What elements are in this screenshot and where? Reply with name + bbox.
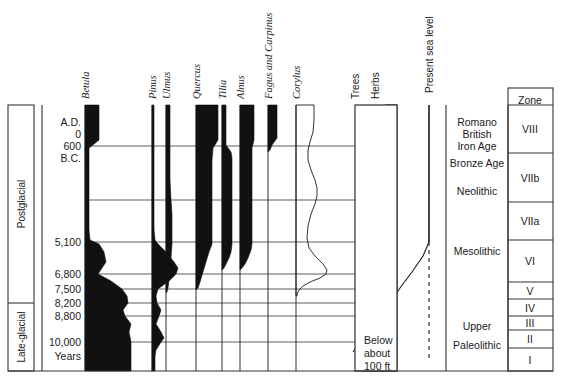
culture-label-1-0: Bronze Age [450, 157, 504, 169]
culture-label-5-0: Paleolithic [453, 339, 501, 351]
taxa-label-alnus: Alnus [235, 75, 246, 100]
time-tick-label-1: 0 [75, 128, 81, 140]
culture-label-0-2: Iron Age [457, 140, 496, 152]
time-tick-label-0: A.D. [61, 116, 81, 128]
time-tick-label-6: 6,800 [55, 268, 81, 280]
zone-label-VIIb: VIIb [521, 172, 540, 184]
culture-label-4-0: Upper [463, 320, 492, 332]
sea-level-note-1: about [364, 347, 390, 359]
taxa-curve-corylus [296, 105, 327, 296]
taxa-label-ulmus: Ulmus [161, 72, 172, 99]
taxa-curve-pinus [152, 105, 178, 371]
present-sea-level-label: Present sea level [424, 16, 435, 93]
culture-label-0-1: British [462, 128, 491, 140]
taxa-label-tilia: Tilia [217, 80, 228, 99]
taxa-label-pinus: Pinus [147, 75, 158, 100]
diagram-canvas: BetulaPinusUlmusQuercusTiliaAlnusFagus a… [0, 0, 561, 385]
culture-label-0-0: Romano [457, 116, 497, 128]
zone-label-II: II [527, 333, 533, 345]
period-label-0: Postglacial [16, 180, 27, 228]
period-label-1: Late-glacial [16, 311, 27, 362]
trees-label: Trees [350, 74, 361, 99]
sea-level-note-2: 100 ft [364, 360, 390, 372]
zone-column-header: Zone [518, 94, 542, 106]
time-tick-label-10: 10,000 [49, 336, 81, 348]
sea-level-note-0: Below [364, 334, 393, 346]
time-tick-label-2: 600 [63, 140, 81, 152]
zone-label-III: III [526, 317, 535, 329]
zone-label-V: V [526, 285, 533, 297]
zone-label-IV: IV [525, 302, 535, 314]
time-tick-label-9: 8,800 [55, 310, 81, 322]
taxa-curve-tilia [222, 105, 232, 270]
taxa-curve-betula [85, 105, 131, 371]
pollen-diagram-figure: BetulaPinusUlmusQuercusTiliaAlnusFagus a… [0, 0, 561, 385]
gridlines-layer [85, 146, 355, 342]
taxa-curve-quercus [196, 105, 218, 290]
taxa-label-betula: Betula [80, 72, 91, 99]
taxa-curve-fagus-and-carpinus [268, 105, 277, 152]
trees-herbs-frame [355, 105, 397, 371]
taxa-label-fagus-and-carpinus: Fagus and Carpinus [263, 13, 274, 100]
zone-label-VIIa: VIIa [521, 215, 540, 227]
time-tick-label-7: 7,500 [55, 283, 81, 295]
herbs-label: Herbs [370, 72, 381, 99]
time-tick-label-11: Years [55, 350, 81, 362]
zone-label-VIII: VIII [522, 123, 538, 135]
taxa-curve-alnus [240, 105, 254, 270]
zone-label-VI: VI [525, 255, 535, 267]
culture-label-2-0: Neolithic [457, 185, 497, 197]
culture-label-3-0: Mesolithic [454, 245, 501, 257]
time-tick-label-8: 8,200 [55, 297, 81, 309]
time-tick-label-3: B.C. [61, 152, 81, 164]
taxa-label-corylus: Corylus [291, 66, 302, 99]
time-tick-label-5: 5,100 [55, 236, 81, 248]
taxa-label-quercus: Quercus [191, 64, 202, 99]
zone-label-I: I [529, 354, 532, 366]
